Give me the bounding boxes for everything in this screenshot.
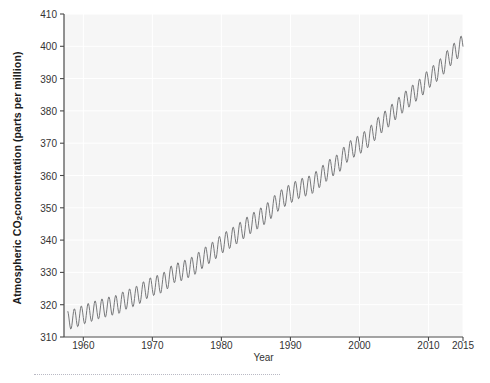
y-axis-tick-label: 410	[24, 9, 57, 20]
x-axis-tick-label: 1960	[72, 340, 94, 351]
y-axis-tick-label: 400	[24, 41, 57, 52]
x-axis-label: Year	[64, 352, 463, 363]
y-axis-tick-label: 310	[24, 332, 57, 343]
x-axis-tick-label: 1970	[141, 340, 163, 351]
x-axis-tick-label: 2015	[452, 340, 474, 351]
y-axis-tick-label: 390	[24, 73, 57, 84]
y-axis-tick-label: 360	[24, 170, 57, 181]
y-axis-tick-label: 380	[24, 105, 57, 116]
y-axis-tick-labels: 310320330340350360370380390400410	[24, 0, 57, 383]
x-axis-tick-label: 2000	[348, 340, 370, 351]
y-axis-tick-label: 350	[24, 202, 57, 213]
chart-plot-area	[0, 0, 490, 383]
y-axis-label-pre: Atmospheric CO	[11, 220, 23, 304]
x-axis-tick-label: 2010	[417, 340, 439, 351]
x-axis-tick-label: 1980	[210, 340, 232, 351]
y-axis-label-post: concentration (parts per million)	[11, 52, 23, 216]
y-axis-tick-label: 330	[24, 267, 57, 278]
x-axis-tick-label: 1990	[279, 340, 301, 351]
y-axis-label-subscript: 2	[15, 216, 24, 220]
co2-chart-figure: Atmospheric CO2 concentration (parts per…	[0, 0, 490, 383]
y-axis-tick-label: 340	[24, 235, 57, 246]
y-axis-tick-label: 320	[24, 299, 57, 310]
y-axis-tick-label: 370	[24, 138, 57, 149]
footer-dotted-rule	[34, 374, 280, 375]
